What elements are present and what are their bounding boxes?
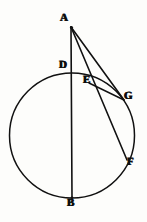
point-label-F: F bbox=[127, 157, 134, 168]
point-label-A: A bbox=[60, 13, 68, 24]
point-label-G: G bbox=[124, 91, 133, 102]
point-label-E: E bbox=[83, 75, 90, 86]
geometry-figure: A D E G F B bbox=[0, 0, 147, 222]
segment-AB bbox=[71, 27, 72, 198]
point-label-B: B bbox=[67, 198, 74, 209]
figure-strokes bbox=[10, 26, 135, 199]
figure-canvas bbox=[0, 0, 147, 222]
point-label-D: D bbox=[59, 60, 67, 71]
vertex-dot-A bbox=[70, 26, 73, 29]
